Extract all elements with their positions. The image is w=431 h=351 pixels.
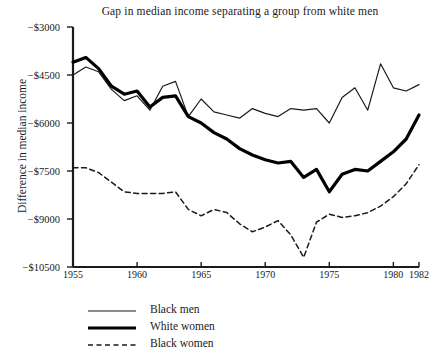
- x-tick-label: 1980: [383, 269, 403, 280]
- x-tick-label: 1970: [255, 269, 275, 280]
- series-line-black-women: [73, 165, 419, 258]
- x-tick-label: 1965: [191, 269, 211, 280]
- series-line-white-women: [73, 57, 419, 191]
- income-gap-chart: Gap in median income separating a group …: [0, 0, 431, 351]
- x-tick-label: 1960: [127, 269, 147, 280]
- legend-label-black-women: Black women: [150, 337, 214, 349]
- x-tick-label: 1975: [319, 269, 339, 280]
- x-tick-label: 1955: [63, 269, 83, 280]
- axes: [67, 27, 419, 267]
- x-tick-label: 1982: [409, 269, 429, 280]
- plot-area: [0, 0, 431, 351]
- legend-label-black-men: Black men: [150, 303, 200, 315]
- legend-label-white-women: White women: [150, 320, 215, 332]
- data-series-layer: [73, 57, 419, 257]
